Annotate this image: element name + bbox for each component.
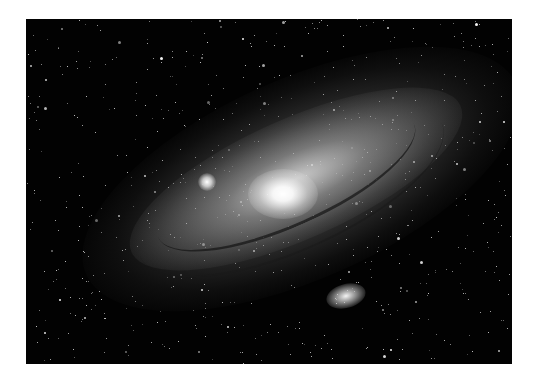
star <box>151 342 152 343</box>
star <box>394 37 395 38</box>
star <box>186 51 187 52</box>
star <box>34 112 35 113</box>
star <box>308 33 309 34</box>
star <box>251 303 252 304</box>
star <box>116 57 117 58</box>
star <box>92 292 93 293</box>
star <box>75 315 76 316</box>
star <box>467 235 468 236</box>
star <box>498 232 499 233</box>
star <box>262 64 265 67</box>
star <box>382 309 384 311</box>
star <box>270 324 271 325</box>
star <box>450 344 451 345</box>
star <box>83 176 84 177</box>
star <box>105 185 106 186</box>
star <box>39 96 40 97</box>
star <box>175 102 176 103</box>
star <box>208 84 209 85</box>
star <box>304 344 305 345</box>
star <box>207 42 208 43</box>
star <box>70 297 71 298</box>
star <box>310 352 311 353</box>
star <box>71 172 72 173</box>
star <box>152 118 153 119</box>
star <box>366 348 367 349</box>
star <box>35 50 36 51</box>
star <box>185 66 186 67</box>
star <box>479 24 480 25</box>
star <box>250 43 251 44</box>
star <box>82 298 83 299</box>
star <box>317 28 318 29</box>
star <box>202 54 203 55</box>
star <box>463 41 464 42</box>
star <box>483 223 484 224</box>
star <box>488 247 489 248</box>
star <box>145 105 146 106</box>
star <box>30 229 31 230</box>
star <box>125 351 127 353</box>
star <box>55 220 56 221</box>
star <box>409 254 410 255</box>
star <box>81 321 82 322</box>
star <box>128 355 129 356</box>
star <box>95 132 96 133</box>
star <box>475 21 476 22</box>
star <box>212 316 213 317</box>
star <box>105 318 106 319</box>
star <box>499 280 500 281</box>
star <box>274 45 275 46</box>
star <box>172 51 173 52</box>
star <box>282 21 285 24</box>
star <box>419 318 420 319</box>
star <box>324 335 325 336</box>
star <box>223 88 224 89</box>
star <box>58 338 59 339</box>
star <box>67 103 68 104</box>
star <box>198 351 200 353</box>
star <box>493 251 494 252</box>
star <box>494 204 495 205</box>
star <box>62 74 63 75</box>
star <box>438 231 439 232</box>
star <box>65 288 66 289</box>
star <box>259 83 261 85</box>
star <box>295 328 296 329</box>
satellite-galaxy-m32 <box>198 173 216 191</box>
star <box>117 155 118 156</box>
star <box>66 207 67 208</box>
star <box>494 219 495 220</box>
star <box>390 41 391 42</box>
star <box>128 345 129 346</box>
star <box>321 20 322 21</box>
star <box>299 322 300 323</box>
star <box>507 164 508 165</box>
star <box>462 289 463 290</box>
star <box>465 293 466 294</box>
star <box>327 25 328 26</box>
star <box>41 64 42 65</box>
star <box>168 110 169 111</box>
star <box>463 293 464 294</box>
star <box>475 23 478 26</box>
star <box>490 311 491 312</box>
star <box>435 270 436 271</box>
star <box>66 201 67 202</box>
star <box>267 332 268 333</box>
star <box>279 75 280 76</box>
star <box>488 200 489 201</box>
star <box>78 240 79 241</box>
star <box>397 310 398 311</box>
star <box>510 236 511 237</box>
star <box>301 55 303 57</box>
galaxy-photo <box>26 19 512 364</box>
star <box>428 274 429 275</box>
star <box>59 177 60 178</box>
star <box>196 328 197 329</box>
star <box>195 325 196 326</box>
star <box>104 313 105 314</box>
star <box>126 155 127 156</box>
star <box>147 69 148 70</box>
star <box>135 100 136 101</box>
